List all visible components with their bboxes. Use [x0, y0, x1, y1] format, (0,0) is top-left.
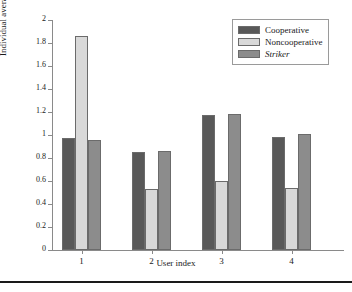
y-tick-label: 0.2 — [36, 221, 46, 231]
legend-label-striker: Striker — [265, 49, 290, 60]
bar-striker-user-1 — [88, 140, 101, 250]
bar-cooperative-user-2 — [132, 152, 145, 250]
x-axis-title: User index — [0, 258, 352, 269]
chart-legend: CooperativeNoncooperativeStriker — [232, 19, 329, 65]
y-tick-mark — [48, 158, 53, 159]
bar-cooperative-user-3 — [202, 115, 215, 250]
y-tick-label: 0 — [42, 244, 46, 254]
legend-item-striker: Striker — [238, 48, 322, 60]
y-tick-mark — [48, 43, 53, 44]
y-tick-label: 1.4 — [36, 83, 46, 93]
y-tick-label: 0.8 — [36, 152, 46, 162]
bar-cooperative-user-1 — [62, 138, 75, 250]
y-tick-mark — [48, 250, 53, 251]
y-tick-mark — [48, 112, 53, 113]
y-tick-label: 1.6 — [36, 60, 46, 70]
bar-noncooperative-user-1 — [75, 36, 88, 250]
x-tick-mark-3 — [222, 250, 223, 254]
legend-label-noncooperative: Noncooperative — [265, 37, 322, 48]
bar-noncooperative-user-4 — [285, 188, 298, 250]
y-tick-label: 1 — [42, 129, 46, 139]
legend-label-cooperative: Cooperative — [265, 25, 309, 36]
bottom-divider — [0, 281, 352, 283]
bar-cooperative-user-4 — [272, 137, 285, 250]
x-tick-mark-1 — [82, 250, 83, 254]
legend-item-cooperative: Cooperative — [238, 24, 322, 36]
bar-noncooperative-user-3 — [215, 181, 228, 250]
legend-swatch-striker — [238, 50, 260, 58]
y-tick-label: 0.6 — [36, 175, 46, 185]
bar-striker-user-2 — [158, 151, 171, 250]
y-tick-label: 0.4 — [36, 198, 46, 208]
legend-swatch-cooperative — [238, 26, 260, 34]
x-axis-line — [52, 250, 344, 251]
x-tick-mark-2 — [152, 250, 153, 254]
legend-item-noncooperative: Noncooperative — [238, 36, 322, 48]
bar-striker-user-4 — [298, 134, 311, 250]
bar-striker-user-3 — [228, 114, 241, 250]
y-tick-mark — [48, 89, 53, 90]
y-tick-mark — [48, 135, 53, 136]
y-tick-mark — [48, 227, 53, 228]
y-axis-title: Individual average data rate — [0, 0, 9, 56]
bar-noncooperative-user-2 — [145, 189, 158, 250]
figure-bar-chart: 00.20.40.60.811.21.41.61.82 1234 Individ… — [0, 0, 352, 292]
legend-swatch-noncooperative — [238, 38, 260, 46]
y-tick-mark — [48, 204, 53, 205]
y-tick-label: 2 — [42, 14, 46, 24]
y-tick-mark — [48, 66, 53, 67]
y-tick-mark — [48, 181, 53, 182]
y-tick-mark — [48, 20, 53, 21]
y-tick-label: 1.2 — [36, 106, 46, 116]
x-tick-mark-4 — [292, 250, 293, 254]
y-tick-label: 1.8 — [36, 37, 46, 47]
